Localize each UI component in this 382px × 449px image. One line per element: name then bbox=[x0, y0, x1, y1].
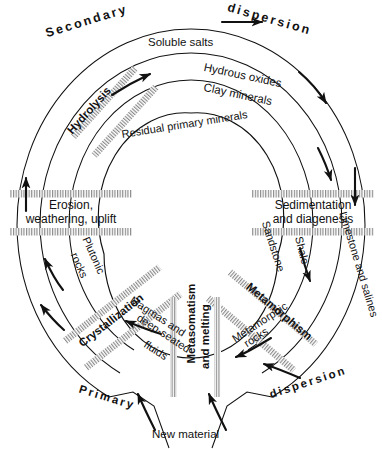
erosion-band-upper bbox=[10, 190, 132, 198]
label-sedimentation-line2: and diagenesis bbox=[252, 213, 374, 227]
arrow-ring-right-upper bbox=[318, 148, 331, 180]
label-metasomatism-line1: Metasomatism bbox=[185, 284, 198, 364]
label-erosion-line1: Erosion, bbox=[10, 199, 132, 213]
label-metasomatism-line2: and melting bbox=[199, 304, 212, 369]
arrow-outer-bottom-right bbox=[264, 364, 300, 378]
arrow-inner-top-right bbox=[299, 72, 326, 103]
arrow-new-material-left bbox=[138, 394, 155, 430]
metasomatism-band-right bbox=[214, 297, 221, 397]
label-new-material: New material bbox=[152, 428, 219, 441]
rock-cycle-diagram: Secondary dispersion Primary dispersion … bbox=[0, 0, 382, 449]
label-soluble-salts: Soluble salts bbox=[148, 36, 213, 49]
label-sedimentation-line1: Sedimentation bbox=[252, 199, 374, 213]
erosion-band-lower bbox=[10, 228, 132, 236]
label-erosion-line2: weathering, uplift bbox=[6, 213, 136, 227]
arrow-new-material-right bbox=[209, 394, 226, 430]
